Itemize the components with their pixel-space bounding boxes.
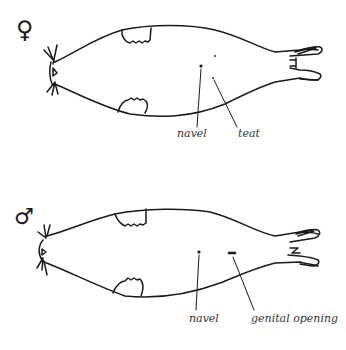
- male-symbol-icon: ♂: [14, 206, 34, 228]
- female-teat-dot-upper: [214, 55, 216, 57]
- male-navel-dot: [197, 250, 200, 253]
- male-genital-label: genital opening: [251, 312, 338, 325]
- female-navel-leader: [197, 69, 201, 127]
- female-navel-label: navel: [177, 127, 207, 140]
- seal-ventral-diagram: ♀ ♂ navel teat navel genital opening: [0, 0, 346, 350]
- female-teat-dot-lower: [212, 77, 214, 79]
- male-seal-outline: [37, 209, 320, 297]
- male-navel-leader: [196, 255, 199, 310]
- female-teat-label: teat: [238, 127, 260, 140]
- male-genital-leader: [233, 257, 254, 310]
- female-symbol-icon: ♀: [16, 18, 34, 42]
- female-teat-leader: [214, 80, 237, 127]
- female-navel-dot: [199, 64, 202, 67]
- male-navel-label: navel: [189, 312, 219, 325]
- female-seal-outline: [44, 26, 322, 117]
- seal-drawings: [0, 0, 346, 350]
